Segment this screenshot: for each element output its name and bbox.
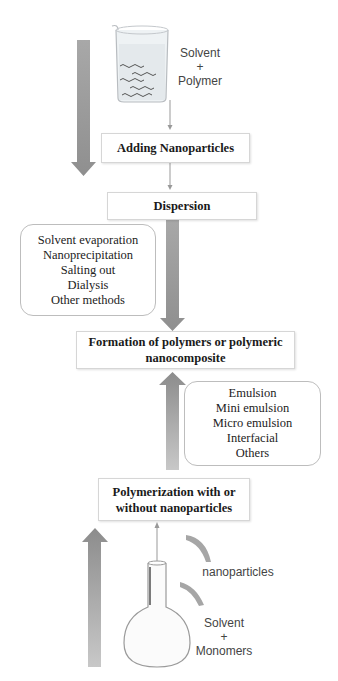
nanoparticles-label: nanoparticles: [198, 565, 278, 579]
flask-label-line: Solvent: [194, 616, 254, 630]
flask-label: Solvent + Monomers: [194, 616, 254, 658]
flask-label-line: Monomers: [194, 644, 254, 658]
nanoparticle-curve-icon: [0, 0, 338, 681]
flask-label-line: +: [194, 630, 254, 644]
